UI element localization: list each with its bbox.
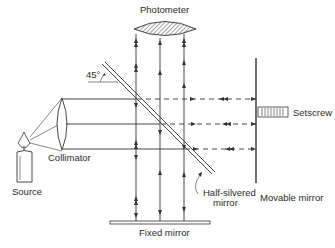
fixed-mirror-label: Fixed mirror [139,227,190,238]
photometer-label: Photometer [140,4,189,15]
movable-mirror: Movable mirror [256,58,323,203]
candle-icon [17,151,32,183]
collimator-label: Collimator [48,152,91,163]
interferometer-diagram: Photometer 45° [0,0,335,248]
photometer: Photometer [134,4,196,36]
setscrew-label: Setscrew [293,107,332,118]
source-label: Source [12,186,42,197]
diagram-canvas: Photometer 45° [0,0,335,248]
angle-label: 45° [86,69,101,80]
fixed-mirror: Fixed mirror [110,221,210,238]
movable-mirror-label: Movable mirror [260,192,323,203]
setscrew-icon [258,107,288,117]
collimator-lens-icon [57,98,67,150]
photometer-lens-icon [134,22,196,36]
half-silvered-mirror [102,62,215,174]
half-silvered-label-line2: mirror [213,197,238,208]
vertical-beams [134,34,186,222]
setscrew: Setscrew [258,107,332,118]
half-silvered-label-group: Half-silvered mirror [195,172,255,208]
source-candle: Source [12,132,42,197]
flame-icon [18,132,30,148]
